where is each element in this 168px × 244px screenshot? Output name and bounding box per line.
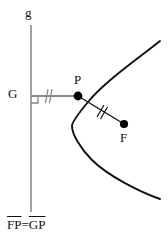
point-p-dot: [74, 92, 83, 101]
parabola-diagram: g G P F FP=GP: [0, 0, 168, 244]
tick-marks-pf: [97, 105, 108, 119]
caption-left-segment: FP: [7, 217, 21, 232]
right-angle-marker: [31, 96, 38, 103]
directrix-label-g: g: [25, 6, 32, 19]
point-f-dot: [120, 120, 128, 128]
point-label-p: P: [74, 73, 81, 86]
diagram-canvas: [0, 0, 168, 244]
caption-right-segment: GP: [29, 217, 46, 232]
caption-equals: =: [21, 217, 28, 232]
point-label-f: F: [120, 131, 127, 144]
caption-equation: FP=GP: [7, 218, 45, 232]
point-label-g: G: [8, 87, 17, 100]
parabola-curve: [72, 41, 160, 199]
